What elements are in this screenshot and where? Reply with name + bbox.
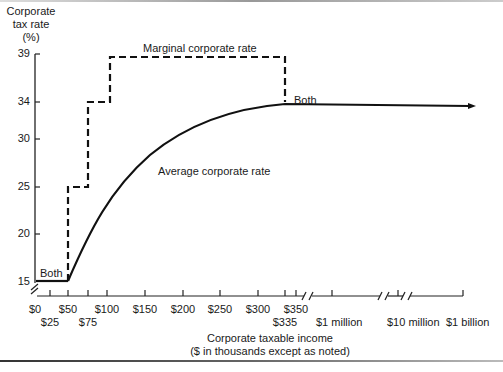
y-tick-15: 15 — [0, 275, 30, 287]
x-tick-1-million: $1 million — [316, 316, 362, 328]
x-tick-335: $335 — [267, 316, 303, 328]
x-tick-250: $250 — [202, 303, 238, 315]
y-tick-30: 30 — [0, 132, 30, 144]
x-tick-25: $25 — [35, 316, 65, 328]
both-label-low: Both — [40, 267, 63, 279]
y-ticks — [35, 54, 40, 234]
x-tick-10-million: $10 million — [387, 316, 440, 328]
marginal-rate-label: Marginal corporate rate — [143, 42, 257, 54]
x-axis-title-2: ($ in thousands except as noted) — [150, 345, 390, 357]
y-axis-title-3: (%) — [2, 31, 60, 43]
y-tick-25: 25 — [0, 180, 30, 192]
x-tick-0: $0 — [20, 303, 50, 315]
x-tick-300: $300 — [240, 303, 276, 315]
y-tick-34: 34 — [0, 95, 30, 107]
x-tick-150: $150 — [127, 303, 163, 315]
x-tick-200: $200 — [165, 303, 201, 315]
average-rate-curve — [68, 104, 470, 281]
both-label-high: Both — [294, 94, 317, 106]
x-tick-1-billion: $1 billion — [446, 316, 489, 328]
x-tick-50: $50 — [53, 303, 83, 315]
x-tick-100: $100 — [89, 303, 125, 315]
x-tick-350: $350 — [278, 303, 314, 315]
arrowhead-icon — [468, 103, 476, 109]
x-tick-75: $75 — [73, 316, 103, 328]
y-axis-title-1: Corporate — [2, 5, 60, 17]
x-axis — [37, 290, 463, 300]
x-axis-title-1: Corporate taxable income — [150, 332, 390, 344]
y-axis-break — [31, 284, 38, 294]
average-rate-label: Average corporate rate — [158, 165, 270, 177]
y-tick-20: 20 — [0, 227, 30, 239]
bottom-rule — [0, 360, 503, 362]
y-axis-title-2: tax rate — [2, 18, 60, 30]
y-tick-39: 39 — [0, 47, 30, 59]
